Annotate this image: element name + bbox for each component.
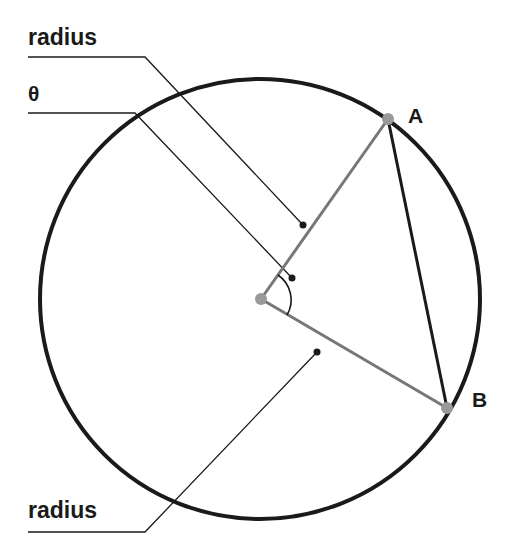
- point-b: [441, 402, 453, 414]
- dot-theta: [289, 275, 296, 282]
- leader-radius-top: [28, 57, 303, 225]
- circle-diagram: radius θ radius A B: [0, 0, 513, 558]
- label-theta: θ: [28, 82, 39, 105]
- dot-radius-bottom: [314, 349, 321, 356]
- label-point-b: B: [472, 388, 487, 411]
- radius-to-b: [261, 299, 447, 408]
- point-center: [255, 293, 267, 305]
- chord-ab: [388, 119, 447, 408]
- label-radius-top: radius: [28, 24, 97, 50]
- label-point-a: A: [408, 104, 423, 127]
- radius-to-a: [261, 119, 388, 299]
- label-radius-bottom: radius: [28, 497, 97, 523]
- point-a: [382, 113, 394, 125]
- dot-radius-top: [300, 222, 307, 229]
